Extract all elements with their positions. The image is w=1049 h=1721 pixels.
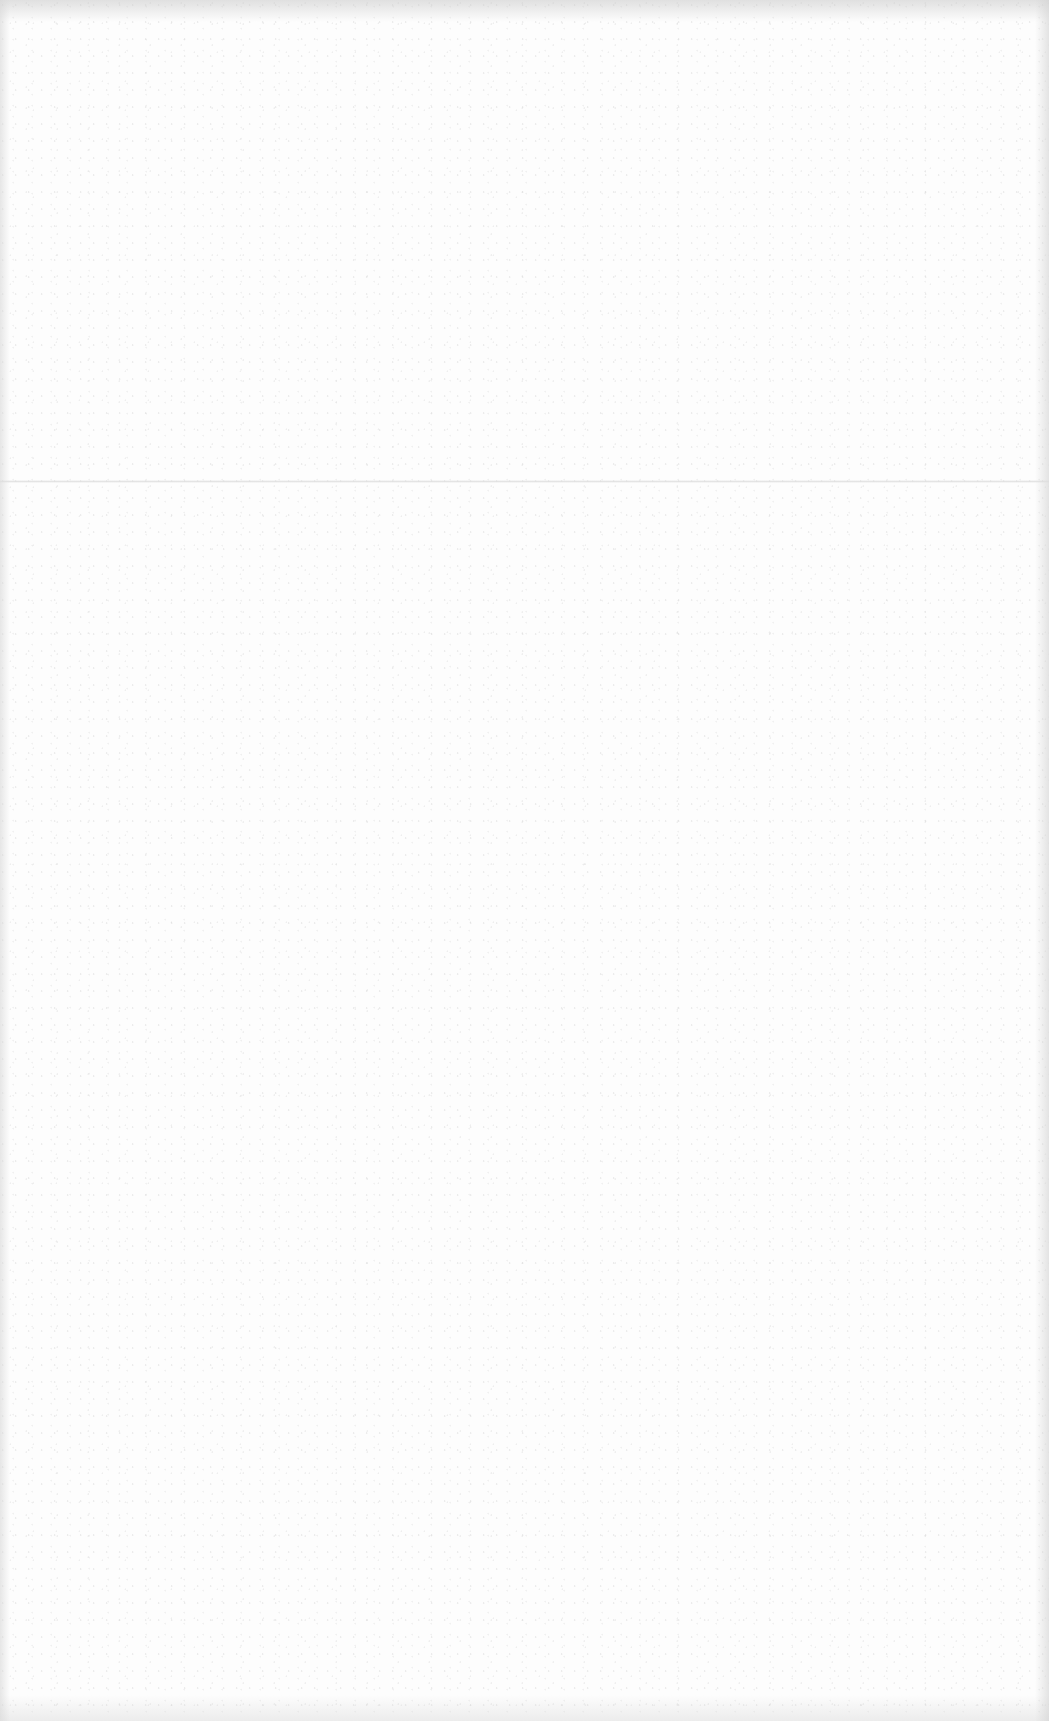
blank-document-page	[0, 0, 1049, 1721]
paper-texture	[0, 0, 1049, 1721]
bottom-edge-shadow	[0, 1695, 1049, 1721]
top-edge-shadow	[0, 0, 1049, 22]
right-edge-shadow	[1035, 0, 1049, 1721]
left-edge-shadow	[0, 0, 10, 1721]
fold-crease-line	[0, 480, 1049, 483]
